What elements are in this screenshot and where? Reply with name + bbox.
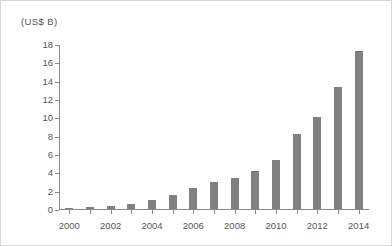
y-tick-label: 8 [48, 131, 53, 142]
x-tick-label: 2004 [141, 220, 162, 231]
bar [148, 200, 156, 209]
bar [251, 171, 259, 209]
y-tick-mark [55, 210, 59, 211]
x-tick-label: 2014 [348, 220, 369, 231]
y-tick-label: 0 [48, 204, 53, 215]
y-tick-mark [55, 173, 59, 174]
x-tick-mark [69, 210, 70, 214]
y-tick-label: 2 [48, 186, 53, 197]
x-tick-mark [111, 210, 112, 214]
bar [86, 207, 94, 209]
bar [231, 178, 239, 209]
x-tick-mark [255, 210, 256, 214]
bar [293, 134, 301, 209]
bar-chart-figure: (US$ B) 024681012141618 2000200220042006… [0, 0, 392, 246]
y-tick-label: 14 [42, 76, 53, 87]
y-axis-line [59, 45, 60, 210]
y-tick-mark [55, 155, 59, 156]
y-tick-mark [55, 137, 59, 138]
x-tick-mark [276, 210, 277, 214]
bar [355, 51, 363, 209]
x-tick-label: 2006 [183, 220, 204, 231]
bar [189, 188, 197, 209]
x-tick-label: 2010 [265, 220, 286, 231]
plot-area: 024681012141618 200020022004200620082010… [59, 45, 369, 210]
y-tick-mark [55, 100, 59, 101]
x-tick-label: 2000 [59, 220, 80, 231]
x-tick-mark [131, 210, 132, 214]
x-tick-mark [297, 210, 298, 214]
y-tick-mark [55, 63, 59, 64]
x-tick-label: 2002 [100, 220, 121, 231]
x-tick-mark [317, 210, 318, 214]
y-tick-mark [55, 192, 59, 193]
y-axis-unit-label: (US$ B) [21, 16, 58, 27]
bar [127, 204, 135, 210]
y-tick-label: 6 [48, 149, 53, 160]
x-tick-mark [235, 210, 236, 214]
bar [65, 208, 73, 209]
bar [313, 117, 321, 209]
bar [334, 87, 342, 209]
x-tick-mark [173, 210, 174, 214]
y-tick-label: 10 [42, 112, 53, 123]
x-tick-mark [214, 210, 215, 214]
y-tick-label: 4 [48, 167, 53, 178]
y-tick-mark [55, 82, 59, 83]
bar [169, 195, 177, 209]
x-tick-label: 2012 [307, 220, 328, 231]
y-tick-label: 16 [42, 57, 53, 68]
x-tick-mark [152, 210, 153, 214]
x-tick-mark [359, 210, 360, 214]
bar [210, 182, 218, 210]
y-tick-mark [55, 45, 59, 46]
y-tick-label: 12 [42, 94, 53, 105]
x-tick-mark [90, 210, 91, 214]
bar [272, 160, 280, 210]
y-tick-mark [55, 118, 59, 119]
y-tick-label: 18 [42, 39, 53, 50]
x-tick-mark [338, 210, 339, 214]
x-tick-label: 2008 [224, 220, 245, 231]
bar [107, 206, 115, 209]
x-tick-mark [193, 210, 194, 214]
